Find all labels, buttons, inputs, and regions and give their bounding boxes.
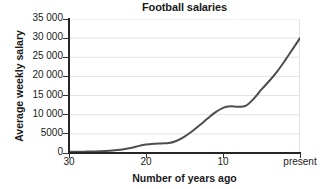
y-tick-mark: [63, 114, 69, 115]
x-axis-line: [68, 152, 301, 154]
y-tick-label: 25 000: [1, 50, 63, 61]
y-tick-mark: [63, 76, 69, 77]
y-axis-ticks: 0500010 00015 00020 00025 00030 00035 00…: [0, 0, 63, 189]
x-tick-label: 20: [140, 156, 151, 167]
chart-container: Football salaries Average weekly salary …: [0, 0, 321, 189]
x-tick-label: 30: [63, 156, 74, 167]
y-tick-mark: [63, 38, 69, 39]
x-axis-label: Number of years ago: [69, 172, 300, 184]
y-tick-mark: [63, 19, 69, 20]
y-tick-label: 30 000: [1, 31, 63, 42]
plot-area: [69, 19, 300, 153]
chart-title: Football salaries: [69, 1, 300, 13]
x-tick-label: present: [283, 156, 316, 167]
y-tick-mark: [63, 133, 69, 134]
data-line: [69, 38, 300, 152]
y-tick-mark: [63, 153, 69, 154]
data-series-group: [69, 38, 300, 152]
y-tick-mark: [63, 57, 69, 58]
x-tick-label: 10: [217, 156, 228, 167]
y-tick-label: 5000: [1, 127, 63, 138]
y-tick-label: 35 000: [1, 12, 63, 23]
y-tick-label: 10 000: [1, 108, 63, 119]
plot-svg: [69, 19, 300, 153]
y-tick-label: 20 000: [1, 69, 63, 80]
y-tick-label: 15 000: [1, 89, 63, 100]
y-tick-label: 0: [1, 146, 63, 157]
y-tick-mark: [63, 95, 69, 96]
